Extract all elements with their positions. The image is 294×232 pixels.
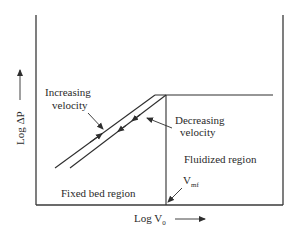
vmf-label-subscript: mf xyxy=(191,181,199,189)
vmf-annotation: Vmf xyxy=(168,174,199,202)
vmf-leader-arrow-icon xyxy=(168,188,182,202)
increasing-leader-arrow-icon xyxy=(88,113,103,129)
y-axis-label: Log ΔP xyxy=(14,111,26,145)
decreasing-label-line1: Decreasing xyxy=(175,114,225,126)
svg-text:Vmf: Vmf xyxy=(183,174,199,189)
fixed-bed-region-label: Fixed bed region xyxy=(61,187,136,199)
fluidized-region-label: Fluidized region xyxy=(184,153,257,165)
increasing-label-line2: velocity xyxy=(52,99,88,111)
fluidization-diagram: Log ΔP Log V0 Increasing xyxy=(0,0,294,232)
decreasing-direction-arrow-icon-1 xyxy=(132,115,140,121)
increasing-direction-arrow-icon xyxy=(90,134,102,143)
x-axis-label-subscript: 0 xyxy=(162,219,166,227)
increasing-velocity-annotation: Increasing velocity xyxy=(45,86,103,129)
increasing-label-line1: Increasing xyxy=(45,86,91,98)
decreasing-label-line2: velocity xyxy=(180,126,216,138)
x-axis-label: Log V0 xyxy=(134,212,166,227)
decreasing-direction-arrow-icon-2 xyxy=(118,125,126,131)
x-axis-label-main: Log V xyxy=(134,212,162,224)
svg-text:Log V0: Log V0 xyxy=(134,212,166,227)
decreasing-velocity-annotation: Decreasing velocity xyxy=(147,114,225,138)
decreasing-leader-arrow-icon xyxy=(147,118,172,128)
y-axis-label-text: Log ΔP xyxy=(14,111,26,145)
vmf-label-main: V xyxy=(183,174,191,186)
